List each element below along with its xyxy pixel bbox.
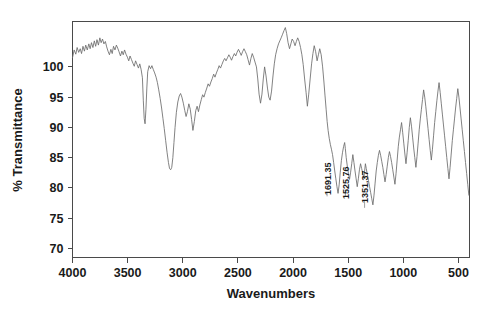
x-tick-label-500: 500 (448, 266, 469, 280)
y-tick-label-75: 75 (50, 212, 64, 226)
x-tick-label-3500: 3500 (114, 266, 142, 280)
x-tick-label-2500: 2500 (224, 266, 252, 280)
spectrum-chart: 707580859095100 400035003000250020001500… (0, 0, 497, 317)
peak-label-1691.35: 1691.35 (323, 162, 333, 195)
peak-label-1351.37: 1351.37 (360, 170, 370, 203)
x-tick-label-2000: 2000 (279, 266, 307, 280)
ir-spectrum-figure: 707580859095100 400035003000250020001500… (0, 0, 497, 317)
y-tick-label-70: 70 (50, 242, 64, 256)
y-axis-title: % Transmittance (10, 88, 25, 191)
x-tick-label-3000: 3000 (169, 266, 197, 280)
y-tick-label-100: 100 (43, 60, 64, 74)
y-tick-label-90: 90 (50, 121, 64, 135)
y-tick-label-80: 80 (50, 181, 64, 195)
x-tick-label-1000: 1000 (389, 266, 417, 280)
x-tick-label-1500: 1500 (334, 266, 362, 280)
y-tick-label-85: 85 (50, 151, 64, 165)
x-axis-title: Wavenumbers (227, 286, 315, 301)
x-tick-label-4000: 4000 (59, 266, 87, 280)
y-tick-label-95: 95 (50, 91, 64, 105)
peak-label-1525.76: 1525.76 (341, 166, 351, 199)
